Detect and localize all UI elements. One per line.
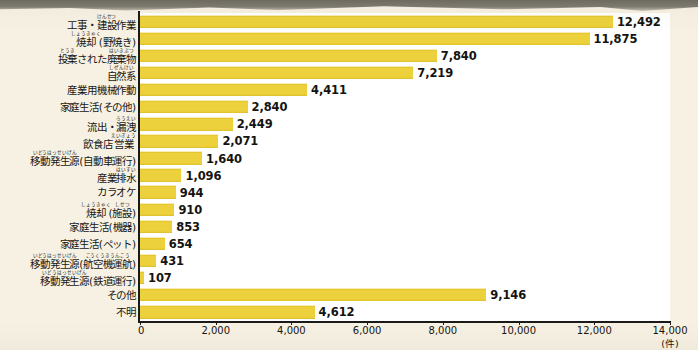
x-tick-label: 14,000 [653, 325, 688, 336]
label-text: された [77, 52, 106, 64]
x-tick-label: 2,000 [201, 325, 230, 336]
bar-value-label: 11,875 [594, 32, 638, 46]
label-text: 流出・ [87, 121, 116, 133]
bar-row: カラオケ944 [0, 184, 698, 201]
bar-value-label: 12,492 [617, 15, 661, 29]
chart-page: 工事・建設けんせつ作業12,492焼却しょうきゃく(野焼き)11,875投棄とう… [0, 0, 698, 350]
label-text: (野焼き) [99, 35, 136, 47]
bar-row: その他9,146 [0, 287, 698, 304]
category-label: 産業排水はいすい [97, 167, 136, 184]
bar-container: 2,071 [140, 135, 258, 147]
furigana: いどうはっせいげん [40, 270, 89, 275]
bar-row: 産業排水はいすい1,096 [0, 167, 698, 184]
furigana: はいきぶつ [107, 47, 136, 52]
bar [140, 101, 248, 113]
bar [140, 306, 315, 318]
category-label: 飲食店営業えいぎょう [83, 133, 136, 150]
label-text: 家庭生活(その他) [60, 101, 136, 113]
bar-value-label: 1,640 [206, 151, 242, 165]
furigana: しょうきゃく [71, 30, 100, 35]
ruby-group: 移動発生源いどうはっせいげん [40, 275, 89, 287]
bar [140, 255, 156, 267]
category-label: 移動発生源いどうはっせいげん(自動車運行) [30, 150, 136, 167]
y-axis-line [138, 11, 140, 323]
category-label: 焼却しょうきゃく(野焼き) [71, 30, 136, 47]
bar-container: 1,096 [140, 169, 221, 181]
bar-row: 産業用機械作動4,411 [0, 81, 698, 98]
ruby-group: 移動発生源いどうはっせいげん [30, 155, 79, 167]
bar [140, 15, 613, 27]
x-tick-label: 6,000 [353, 325, 382, 336]
label-text: (鉄道運行) [89, 275, 136, 287]
furigana: とうき [58, 47, 78, 52]
bar-value-label: 107 [148, 271, 172, 285]
bar-row: 家庭生活(機器)853 [0, 218, 698, 235]
label-text: 作業 [116, 18, 136, 30]
bar-value-label: 2,840 [252, 100, 288, 114]
category-label: 移動発生源いどうはっせいげん(航空機運航こうくうきうんこう) [30, 253, 136, 270]
label-text: ) [132, 206, 136, 218]
bar-value-label: 654 [169, 237, 193, 251]
bar-container: 1,640 [140, 152, 242, 164]
bar [140, 152, 202, 164]
bar-value-label: 4,411 [311, 83, 347, 97]
category-label: 不明 [116, 307, 136, 318]
category-label: 投棄とうきされた廃棄物はいきぶつ [58, 47, 136, 64]
bar [140, 220, 172, 232]
bar [140, 67, 413, 79]
bar-row: 流出・漏洩ろうえい2,449 [0, 116, 698, 133]
bar-rows: 工事・建設けんせつ作業12,492焼却しょうきゃく(野焼き)11,875投棄とう… [0, 13, 698, 321]
bar-value-label: 4,612 [319, 305, 355, 319]
bar [140, 186, 176, 198]
bar-row: 家庭生活(ペット)654 [0, 235, 698, 252]
bar-row: 家庭生活(その他)2,840 [0, 98, 698, 115]
bar-row: 不明4,612 [0, 304, 698, 321]
furigana: こうくうきうんこう [83, 253, 132, 258]
ruby-group: 建設けんせつ [97, 18, 117, 30]
bar-row: 自然系しぜんけい7,219 [0, 64, 698, 81]
label-text: その他 [107, 289, 136, 301]
label-text: (自動車運行) [79, 155, 136, 167]
bar [140, 32, 590, 44]
label-text: カラオケ [97, 186, 136, 198]
category-label: カラオケ [97, 187, 136, 198]
category-label: 移動発生源いどうはっせいげん(鉄道運行) [40, 270, 136, 287]
bar-row: 投棄とうきされた廃棄物はいきぶつ7,840 [0, 47, 698, 64]
bar [140, 135, 218, 147]
ruby-group: 施設しせつ [112, 206, 132, 218]
bar-value-label: 7,840 [441, 49, 477, 63]
bar-value-label: 9,146 [490, 288, 526, 302]
bar-value-label: 853 [176, 220, 200, 234]
ruby-group: 焼却しょうきゃく [71, 35, 98, 47]
label-text: 産業用機械作動 [67, 84, 136, 96]
bar-container: 9,146 [140, 289, 526, 301]
axis-unit-label: (件) [661, 336, 678, 350]
bar [140, 289, 486, 301]
ruby-group: 投棄とうき [58, 52, 78, 64]
x-tick-label: 8,000 [429, 325, 458, 336]
ruby-group: 航空機運航こうくうきうんこう [83, 258, 132, 270]
bar-row: 移動発生源いどうはっせいげん(自動車運行)1,640 [0, 150, 698, 167]
category-label: 家庭生活(ペット) [60, 239, 136, 250]
category-label: 自然系しぜんけい [107, 65, 136, 82]
bar [140, 84, 307, 96]
furigana: けんせつ [97, 13, 117, 18]
bar-value-label: 910 [178, 203, 202, 217]
bar-container: 107 [140, 272, 172, 284]
bar [140, 118, 233, 130]
bar-container: 4,411 [140, 84, 347, 96]
bar-container: 944 [140, 186, 203, 198]
bar-container: 2,840 [140, 101, 287, 113]
bar-container: 7,219 [140, 67, 453, 79]
bar-value-label: 2,071 [222, 134, 258, 148]
x-tick-label: 0 [138, 325, 144, 336]
ruby-group: 自然系しぜんけい [107, 70, 136, 82]
furigana: ろうえい [116, 116, 136, 121]
label-text: 飲食店 [83, 138, 112, 150]
bar-container: 431 [140, 255, 184, 267]
bar-container: 654 [140, 238, 192, 250]
furigana: えいぎょう [111, 133, 136, 138]
category-label: 家庭生活(その他) [60, 102, 136, 113]
bar [140, 50, 437, 62]
bar-row: 移動発生源いどうはっせいげん(鉄道運行)107 [0, 269, 698, 286]
